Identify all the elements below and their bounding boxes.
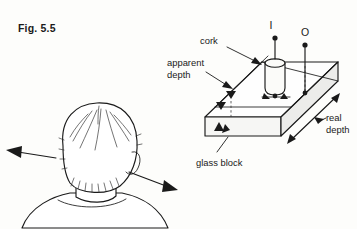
- left-arrow-head: [6, 146, 22, 158]
- apparent-depth-label-line2: depth: [167, 69, 190, 80]
- cork-leader-arrowhead: [251, 57, 262, 65]
- cork-label: cork: [200, 35, 218, 46]
- cork-leader-line: [227, 47, 257, 62]
- block-front-face: [205, 117, 281, 136]
- cork-top-ellipse: [265, 59, 285, 67]
- cork-leader-arrow-icon: [227, 47, 262, 65]
- right-arrow-head: [162, 180, 178, 192]
- pin-i-foot: [273, 94, 278, 99]
- real-depth-label-line1: real: [326, 112, 342, 123]
- apparent-depth-label-line1: apparent: [167, 57, 204, 68]
- right-arrow-shaft: [129, 172, 166, 186]
- glass-block-leader-line: [217, 137, 228, 152]
- image-point-label: I: [270, 19, 273, 31]
- observer-head-icon: [22, 103, 168, 228]
- real-depth-label-line2: depth: [326, 124, 349, 135]
- glass-block-label: glass block: [196, 157, 243, 168]
- pin-o-head: [302, 42, 307, 47]
- pin-o-foot: [303, 91, 308, 96]
- real-depth-arrowhead-high: [331, 93, 340, 103]
- real-depth-arrowhead-low: [287, 134, 296, 144]
- figure-container: Fig. 5.5: [0, 0, 357, 229]
- cork-body: [265, 63, 285, 95]
- left-arrow-icon: [6, 146, 56, 158]
- apparent-depth-arrowhead-a: [222, 81, 233, 89]
- object-point-label: O: [301, 26, 309, 38]
- real-depth-leader-arrowhead: [314, 117, 324, 124]
- pin-i-head: [272, 35, 277, 40]
- left-arrow-shaft: [18, 152, 56, 158]
- figure-illustration: Fig. 5.5: [0, 0, 357, 229]
- right-arrow-icon: [129, 172, 178, 192]
- figure-number-label: Fig. 5.5: [18, 22, 56, 34]
